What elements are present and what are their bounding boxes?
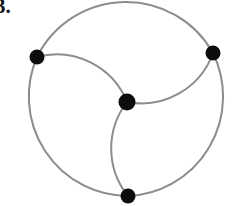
outer-arc-left-to-right <box>37 2 213 57</box>
inner-arc-right-to-center <box>127 53 213 103</box>
inner-arc-left-to-center <box>37 54 127 102</box>
vertex-center <box>119 94 136 111</box>
graph-diagram <box>0 0 232 206</box>
figure-container: 3. <box>0 0 232 206</box>
outer-arc-bottom-to-left <box>29 57 128 196</box>
vertex-bottom <box>121 189 136 204</box>
inner-arc-bottom-to-center <box>111 102 128 196</box>
vertex-left <box>30 50 45 65</box>
outer-arc-right-to-bottom <box>128 53 223 196</box>
vertex-right <box>206 46 221 61</box>
vertices <box>30 46 221 204</box>
